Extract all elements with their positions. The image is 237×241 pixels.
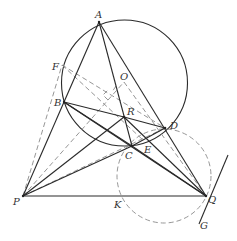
label-R: R bbox=[126, 106, 135, 117]
label-D: D bbox=[169, 120, 178, 131]
label-Q: Q bbox=[208, 194, 216, 205]
label-F: F bbox=[51, 61, 60, 72]
label-E: E bbox=[143, 144, 152, 155]
point-R bbox=[123, 116, 126, 119]
segment-AB bbox=[64, 22, 99, 102]
segment-PF bbox=[23, 65, 62, 196]
geometry-diagram: A F O B R D E C P K Q G bbox=[0, 0, 237, 241]
point-B bbox=[63, 101, 65, 103]
segment-PO bbox=[23, 82, 124, 196]
point-P bbox=[22, 195, 24, 197]
point-D bbox=[164, 127, 167, 130]
label-A: A bbox=[94, 9, 102, 20]
segment-FE bbox=[62, 65, 143, 140]
segment-PB bbox=[23, 102, 64, 196]
label-K: K bbox=[113, 199, 122, 210]
label-C: C bbox=[125, 150, 133, 161]
label-G: G bbox=[200, 220, 208, 231]
point-Q bbox=[205, 195, 207, 197]
label-B: B bbox=[53, 97, 61, 108]
label-P: P bbox=[12, 196, 20, 207]
segment-AQ bbox=[99, 22, 206, 196]
tangent-line-Q bbox=[199, 155, 228, 224]
label-O: O bbox=[120, 71, 128, 82]
point-A bbox=[98, 21, 100, 23]
point-C bbox=[131, 145, 134, 148]
segment-BR bbox=[64, 102, 124, 117]
